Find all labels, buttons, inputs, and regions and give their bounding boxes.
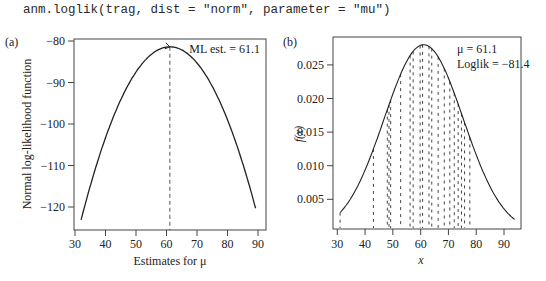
panel-a-annotation: ML est. = 61.1	[189, 42, 260, 56]
x-tick-label: 30	[69, 237, 81, 251]
panel-a-x-label: Estimates for μ	[133, 254, 206, 268]
figure: (a) −80−90−100−110−120 30405060708090 ML…	[0, 0, 546, 281]
y-tick-label: −120	[40, 200, 65, 214]
x-tick-label: 60	[161, 237, 173, 251]
panel-b-x-label: x	[417, 253, 424, 267]
panel-b-y-label: f(x)	[292, 126, 306, 143]
x-tick-label: 90	[498, 237, 510, 251]
x-tick-label: 70	[442, 237, 454, 251]
x-tick-label: 60	[415, 237, 427, 251]
x-tick-label: 30	[331, 237, 343, 251]
panel-a-y-axis: −80−90−100−110−120	[40, 34, 74, 214]
x-tick-label: 40	[359, 237, 371, 251]
y-tick-label: −110	[41, 159, 65, 173]
x-tick-label: 50	[130, 237, 142, 251]
x-tick-label: 90	[252, 237, 264, 251]
panel-b-observation-lines	[340, 45, 470, 228]
x-tick-label: 40	[100, 237, 112, 251]
y-tick-label: −80	[46, 34, 65, 48]
panel-a-x-axis: 30405060708090	[69, 230, 264, 251]
panel-a-loglik-curve	[81, 47, 256, 220]
panel-b-annotation-mu: μ = 61.1	[457, 42, 497, 56]
x-tick-label: 80	[470, 237, 482, 251]
panel-b: (b) 0.0050.0100.0150.0200.025 3040506070…	[283, 35, 530, 267]
panel-b-label: (b)	[283, 35, 297, 49]
y-tick-label: 0.020	[297, 92, 324, 106]
x-tick-label: 50	[387, 237, 399, 251]
x-tick-label: 80	[222, 237, 234, 251]
panel-a-label: (a)	[5, 35, 18, 49]
y-tick-label: −90	[46, 76, 65, 90]
panel-a-arrow-icon	[165, 43, 170, 49]
x-tick-label: 70	[191, 237, 203, 251]
panel-b-annotation-loglik: Loglik = −81.4	[457, 57, 530, 71]
panel-a: (a) −80−90−100−110−120 30405060708090 ML…	[5, 34, 266, 268]
panel-b-x-axis: 30405060708090	[331, 229, 510, 251]
y-tick-label: 0.005	[297, 192, 324, 206]
panel-a-y-label: Normal log-likelihood function	[20, 59, 34, 210]
y-tick-label: −100	[40, 117, 65, 131]
y-tick-label: 0.010	[297, 159, 324, 173]
y-tick-label: 0.025	[297, 58, 324, 72]
